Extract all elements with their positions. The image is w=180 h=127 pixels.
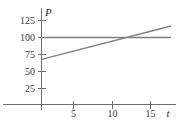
x-tick-label-10: 10 bbox=[108, 108, 118, 119]
y-tick-label-75: 75 bbox=[25, 49, 35, 60]
x-tick-label-5: 5 bbox=[71, 108, 76, 119]
y-tick-label-125: 125 bbox=[20, 15, 35, 26]
chart-figure: 125 100 75 50 25 5 10 15 P t bbox=[0, 0, 180, 127]
chart-plot-area: 125 100 75 50 25 5 10 15 P t bbox=[0, 0, 180, 127]
x-axis-label: t bbox=[166, 107, 170, 119]
series-population-line bbox=[42, 26, 172, 59]
y-tick-label-50: 50 bbox=[25, 66, 35, 77]
y-tick-label-100: 100 bbox=[20, 32, 35, 43]
y-axis-label: P bbox=[44, 6, 52, 18]
y-tick-label-25: 25 bbox=[25, 83, 35, 94]
x-tick-label-15: 15 bbox=[146, 108, 156, 119]
